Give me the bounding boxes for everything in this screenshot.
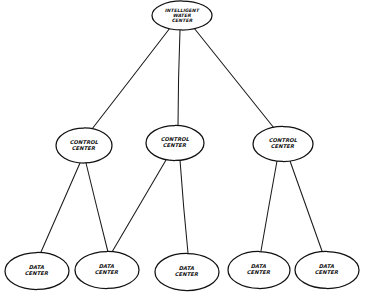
edge-control-3-data-5	[290, 161, 322, 251]
node-control-2[interactable]	[146, 125, 204, 160]
edge-control-1-data-1	[41, 163, 80, 252]
node-data-3[interactable]	[155, 253, 219, 290]
edge-root-control-2	[178, 30, 180, 126]
diagram-canvas: IntelligentwaterCenterControlCenterContr…	[0, 0, 367, 296]
node-data-4[interactable]	[228, 251, 290, 289]
node-data-2[interactable]	[75, 251, 139, 288]
edge-root-control-1	[92, 28, 170, 129]
edge-control-1-data-2	[86, 163, 108, 252]
edge-control-2-data-3	[180, 160, 188, 253]
node-control-3[interactable]	[253, 126, 313, 161]
node-root[interactable]	[152, 1, 212, 30]
diagram-svg	[0, 0, 367, 296]
nodes-layer	[5, 1, 359, 291]
edge-control-2-data-2	[112, 160, 166, 252]
node-data-5[interactable]	[295, 251, 359, 288]
node-control-1[interactable]	[56, 128, 112, 163]
node-data-1[interactable]	[5, 252, 69, 289]
edge-root-control-3	[194, 28, 274, 128]
edge-control-3-data-4	[261, 161, 277, 251]
